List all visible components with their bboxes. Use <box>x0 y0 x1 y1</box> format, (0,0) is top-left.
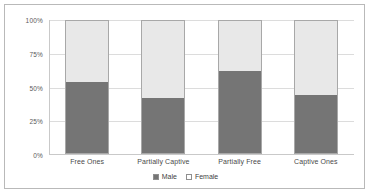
chart-legend: Male Female <box>5 173 366 180</box>
bar-segment-female-0[interactable] <box>66 21 108 82</box>
legend-swatch-male-icon <box>153 174 159 180</box>
x-tick-label-1: Partially Captive <box>125 158 201 165</box>
bar-segment-female-1[interactable] <box>142 21 184 98</box>
y-tick-label-50: 50% <box>29 84 43 91</box>
y-axis: 100% 75% 50% 25% 0% <box>5 20 47 155</box>
x-tick-label-2: Partially Free <box>202 158 278 165</box>
bar-stack-captive-ones[interactable] <box>294 20 338 154</box>
bar-slot-2 <box>202 20 278 154</box>
bar-slot-1 <box>125 20 201 154</box>
chart-container: 100% 75% 50% 25% 0% <box>4 4 365 189</box>
bar-segment-female-2[interactable] <box>219 21 261 71</box>
legend-entry-female[interactable]: Female <box>186 173 218 180</box>
y-tick-label-75: 75% <box>29 50 43 57</box>
bar-stack-free-ones[interactable] <box>65 20 109 154</box>
legend-swatch-female-icon <box>186 174 192 180</box>
bar-segment-male-2[interactable] <box>219 71 261 153</box>
y-tick-label-25: 25% <box>29 118 43 125</box>
bar-segment-male-1[interactable] <box>142 98 184 153</box>
bar-segment-female-3[interactable] <box>295 21 337 95</box>
bar-stack-partially-captive[interactable] <box>141 20 185 154</box>
bar-slot-0 <box>49 20 125 154</box>
bar-stack-partially-free[interactable] <box>218 20 262 154</box>
legend-label-female: Female <box>195 173 218 180</box>
x-tick-label-0: Free Ones <box>49 158 125 165</box>
y-tick-label-0: 0% <box>33 152 43 159</box>
y-tick-label-100: 100% <box>26 17 43 24</box>
bars-layer <box>49 20 354 154</box>
bar-segment-male-3[interactable] <box>295 95 337 153</box>
legend-entry-male[interactable]: Male <box>153 173 177 180</box>
x-tick-label-3: Captive Ones <box>278 158 354 165</box>
legend-label-male: Male <box>162 173 177 180</box>
bar-slot-3 <box>278 20 354 154</box>
x-axis: Free Ones Partially Captive Partially Fr… <box>49 158 354 165</box>
bar-segment-male-0[interactable] <box>66 82 108 153</box>
